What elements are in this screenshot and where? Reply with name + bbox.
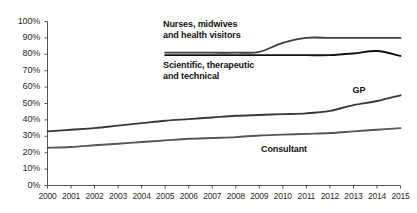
y-tick-20: 20% [2,148,40,157]
y-tick-80: 80% [2,49,40,58]
series-label-scientific: Scientific, therapeutic and technical [163,60,283,82]
y-tick-10: 10% [2,164,40,173]
y-tick-70: 70% [2,66,40,75]
y-tick-50: 50% [2,99,40,108]
series-label-scientific-line1: Scientific, therapeutic [163,60,283,71]
series-label-scientific-line2: and technical [163,71,283,82]
series-label-nurses-line1: Nurses, midwives [163,19,281,30]
series-label-consultant: Consultant [255,144,313,155]
y-tick-60: 60% [2,82,40,91]
series-line-gp [48,95,401,131]
line-chart: 0%10%20%30%40%50%60%70%80%90%100% 200020… [0,0,417,213]
series-line-consultant [48,128,401,148]
series-label-nurses: Nurses, midwives and health visitors [163,19,281,41]
chart-axes [45,22,401,189]
y-tick-30: 30% [2,131,40,140]
x-tick-2015: 2015 [387,192,415,201]
series-label-nurses-line2: and health visitors [163,30,281,41]
series-label-gp: GP [347,85,371,96]
y-tick-40: 40% [2,115,40,124]
y-tick-0: 0% [2,181,40,190]
y-tick-90: 90% [2,33,40,42]
y-tick-100: 100% [2,17,40,26]
